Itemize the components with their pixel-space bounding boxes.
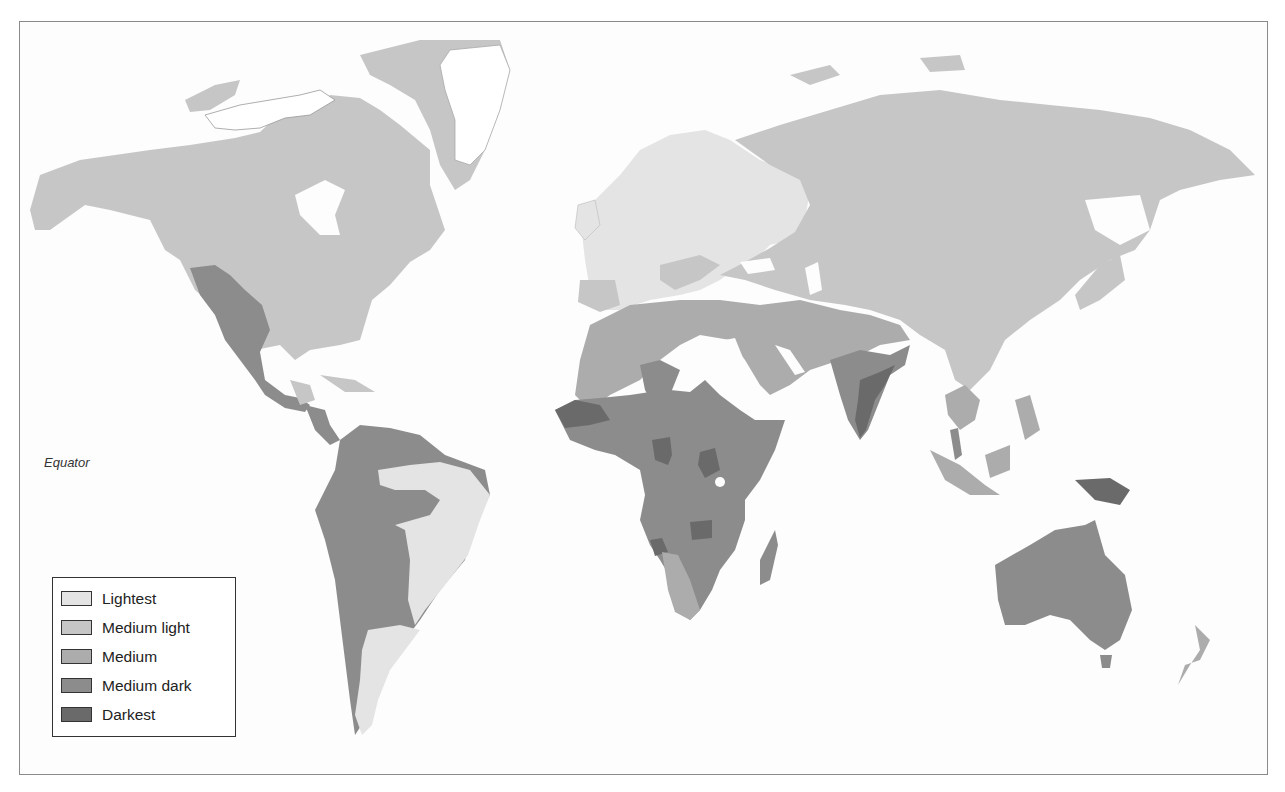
legend-item-medium-light: Medium light: [61, 613, 235, 642]
legend-swatch: [61, 649, 92, 664]
legend-item-lightest: Lightest: [61, 584, 235, 613]
legend-item-darkest: Darkest: [61, 700, 235, 729]
legend: Lightest Medium light Medium Medium dark…: [52, 577, 236, 737]
legend-item-medium-dark: Medium dark: [61, 671, 235, 700]
legend-item-medium: Medium: [61, 642, 235, 671]
legend-label: Medium light: [102, 619, 190, 637]
equator-label: Equator: [44, 455, 90, 470]
legend-label: Lightest: [102, 590, 156, 608]
legend-label: Medium: [102, 648, 157, 666]
legend-swatch: [61, 678, 92, 693]
legend-swatch: [61, 620, 92, 635]
australia: [995, 520, 1132, 650]
legend-swatch: [61, 591, 92, 606]
legend-label: Medium dark: [102, 677, 192, 695]
legend-swatch: [61, 707, 92, 722]
legend-label: Darkest: [102, 706, 155, 724]
